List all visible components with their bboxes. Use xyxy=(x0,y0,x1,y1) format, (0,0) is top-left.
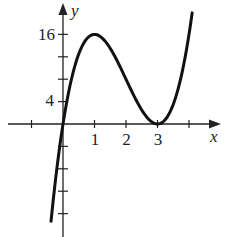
y-tick-label-16: 16 xyxy=(38,25,55,44)
y-axis-arrow-icon xyxy=(59,3,68,15)
y-axis-label: y xyxy=(69,1,79,20)
x-tick-label-1: 1 xyxy=(91,130,100,149)
function-curve xyxy=(51,13,192,221)
y-tick-label-4: 4 xyxy=(46,91,55,110)
function-graph: 1 2 3 4 16 x y xyxy=(0,0,232,237)
x-tick-label-2: 2 xyxy=(122,130,131,149)
x-tick-label-3: 3 xyxy=(154,130,163,149)
x-axis-label: x xyxy=(209,127,218,146)
